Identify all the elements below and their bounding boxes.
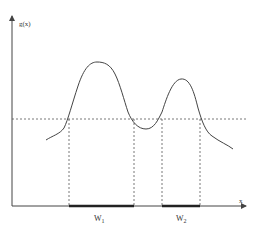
x-axis-label: x bbox=[239, 197, 243, 205]
function-curve bbox=[46, 62, 233, 149]
diagram-canvas: g(x) x W1 W2 bbox=[0, 0, 257, 233]
window-2-label: W2 bbox=[176, 214, 187, 224]
y-axis-label: g(x) bbox=[19, 20, 31, 28]
window-1-label: W1 bbox=[94, 214, 105, 224]
